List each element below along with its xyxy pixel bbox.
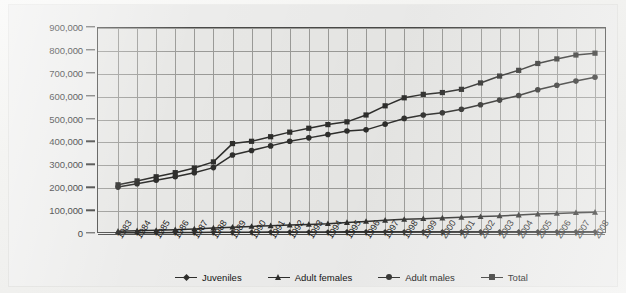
legend-label: Juveniles <box>202 272 242 283</box>
data-point-marker <box>459 87 464 92</box>
data-point-marker <box>516 68 521 73</box>
data-point-marker <box>401 116 407 122</box>
data-point-marker <box>230 152 236 158</box>
legend-symbol-diamond-icon <box>183 273 190 280</box>
data-point-marker <box>497 73 502 78</box>
y-axis-tick-label: 300,000 <box>49 159 83 170</box>
data-point-marker <box>478 80 483 85</box>
y-axis-tick-label: 900,000 <box>49 22 83 33</box>
data-point-marker <box>363 112 368 117</box>
y-axis-tick <box>86 232 95 233</box>
series-adult-males <box>115 74 598 189</box>
legend-symbol-circle-icon <box>386 274 392 280</box>
legend-item-total[interactable]: Total <box>481 272 528 283</box>
legend-label: Adult males <box>405 272 455 283</box>
y-axis-tick <box>86 141 95 142</box>
legend-item-juveniles[interactable]: Juveniles <box>175 272 242 283</box>
data-point-marker <box>363 127 369 133</box>
data-point-marker <box>154 174 159 179</box>
data-point-marker <box>287 139 293 145</box>
data-point-marker <box>478 102 484 108</box>
data-point-marker <box>516 93 522 99</box>
legend-label: Total <box>508 272 528 283</box>
data-point-marker <box>535 87 541 93</box>
data-point-marker <box>440 90 445 95</box>
legend-symbol-square-icon <box>489 274 495 280</box>
data-point-marker <box>383 103 388 108</box>
plot-area <box>97 27 606 233</box>
y-axis-tick-label: 500,000 <box>49 113 83 124</box>
series-line <box>118 77 595 187</box>
legend-marker-icon <box>268 272 290 283</box>
data-point-marker <box>306 135 312 141</box>
data-point-marker <box>306 126 311 131</box>
data-point-marker <box>573 78 579 84</box>
y-axis-tick <box>86 118 95 119</box>
data-point-marker <box>344 119 349 124</box>
data-point-marker <box>402 95 407 100</box>
y-axis-tick-label: 800,000 <box>49 44 83 55</box>
y-axis-tick <box>86 209 95 210</box>
data-point-marker <box>192 170 198 176</box>
y-axis-tick-label: 0 <box>78 228 83 239</box>
y-axis-tick <box>86 164 95 165</box>
data-point-marker <box>382 121 388 127</box>
chart-card: 0100,000200,000300,000400,000500,000600,… <box>9 5 617 286</box>
data-point-marker <box>173 170 178 175</box>
legend-item-adult-males[interactable]: Adult males <box>378 272 455 283</box>
y-axis-tick-label: 600,000 <box>49 90 83 101</box>
y-axis-tick <box>86 26 95 27</box>
data-point-marker <box>592 74 598 80</box>
data-point-marker <box>249 139 254 144</box>
data-point-marker <box>554 56 559 61</box>
data-point-marker <box>497 97 503 103</box>
data-point-marker <box>268 134 273 139</box>
y-axis-tick <box>86 72 95 73</box>
data-point-marker <box>325 132 331 138</box>
chart-legend: JuvenilesAdult femalesAdult malesTotal <box>97 267 606 287</box>
data-point-marker <box>535 61 540 66</box>
data-point-marker <box>573 52 578 57</box>
data-point-marker <box>344 128 350 134</box>
data-point-marker <box>287 130 292 135</box>
data-point-marker <box>592 51 597 56</box>
data-point-marker <box>249 148 255 154</box>
series-total <box>115 51 597 188</box>
data-point-marker <box>459 106 465 112</box>
data-point-marker <box>230 141 235 146</box>
y-axis-tick-label: 200,000 <box>49 182 83 193</box>
y-axis-tick <box>86 49 95 50</box>
y-axis-tick <box>86 187 95 188</box>
legend-label: Adult females <box>295 272 353 283</box>
y-axis-tick-label: 100,000 <box>49 205 83 216</box>
data-point-marker <box>134 178 139 183</box>
data-point-marker <box>268 143 274 149</box>
data-point-marker <box>115 182 120 187</box>
data-point-marker <box>325 122 330 127</box>
data-point-marker <box>211 159 216 164</box>
legend-marker-icon <box>378 272 400 283</box>
data-point-marker <box>421 92 426 97</box>
series-line <box>118 53 595 185</box>
y-axis-tick <box>86 95 95 96</box>
data-point-marker <box>211 165 217 171</box>
y-axis-tick-label: 700,000 <box>49 67 83 78</box>
screenshot-root: 0100,000200,000300,000400,000500,000600,… <box>0 0 626 293</box>
data-point-marker <box>192 165 197 170</box>
data-point-marker <box>440 110 446 116</box>
legend-marker-icon <box>481 272 503 283</box>
chart-series-layer <box>98 28 607 234</box>
legend-symbol-triangle-icon <box>275 274 281 280</box>
y-axis-tick-label: 400,000 <box>49 136 83 147</box>
y-axis: 0100,000200,000300,000400,000500,000600,… <box>9 5 97 255</box>
data-point-marker <box>554 82 560 88</box>
legend-item-adult-females[interactable]: Adult females <box>268 272 353 283</box>
data-point-marker <box>420 112 426 118</box>
legend-marker-icon <box>175 272 197 283</box>
